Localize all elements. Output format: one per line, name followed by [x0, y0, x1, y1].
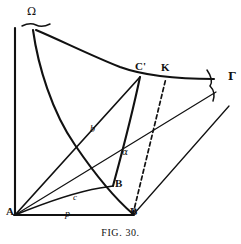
label-p-axis: p	[65, 209, 70, 219]
chord-b-to-c-prime	[113, 77, 140, 186]
figure-30-container: Ω Γ C' K B B A p c b α FIG. 30.	[0, 0, 241, 244]
omega-curve	[36, 30, 214, 79]
label-c-prime: C'	[135, 61, 146, 72]
curve-c-a-to-b	[15, 186, 113, 215]
label-gamma: Γ	[228, 71, 236, 82]
label-omega: Ω	[27, 6, 36, 17]
dashed-line-b-to-k	[133, 78, 166, 214]
label-c-curve: c	[73, 193, 77, 202]
omega-brace-mark	[22, 24, 50, 27]
label-b-italic: b	[90, 124, 95, 134]
line-b-to-gamma	[133, 106, 229, 215]
label-b-upper: B	[115, 178, 122, 189]
line-a-to-c-prime	[15, 77, 140, 215]
label-k: K	[161, 62, 170, 73]
label-b-lower: B	[130, 206, 137, 217]
label-a-origin: A	[6, 206, 14, 217]
figure-caption: FIG. 30.	[0, 227, 241, 238]
figure-drawing	[0, 0, 241, 244]
label-alpha: α	[122, 148, 128, 157]
